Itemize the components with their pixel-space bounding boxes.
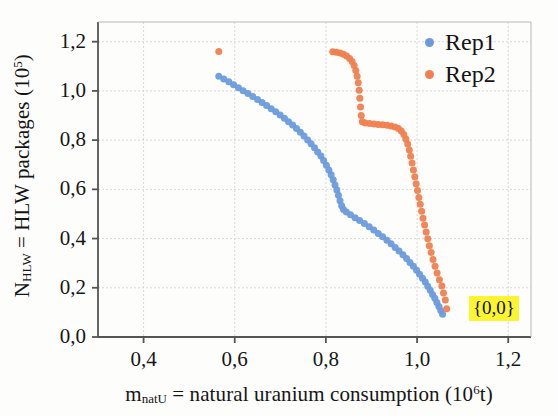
data-point [419, 215, 426, 222]
chart-figure: NHLW = HLW packages (105) mnatU = natura… [0, 0, 558, 416]
data-point [436, 276, 443, 283]
y-tick-label: 1,0 [34, 78, 86, 103]
y-tick-label: 1,2 [34, 29, 86, 54]
data-point [415, 194, 422, 201]
x-axis-symbol-subscript: natU [142, 391, 167, 406]
data-point [356, 95, 363, 102]
data-point [439, 311, 446, 318]
legend-item-rep1[interactable]: Rep1 [425, 26, 496, 58]
data-point [404, 141, 411, 148]
data-point [428, 249, 435, 256]
x-tick-label: 0,8 [296, 347, 356, 372]
series-rep1 [215, 73, 446, 318]
y-tick-label: 0,4 [34, 226, 86, 251]
data-point [354, 73, 361, 80]
data-point [432, 263, 439, 270]
data-point [426, 242, 433, 249]
y-axis-tail: ) [10, 54, 34, 61]
legend-label: Rep2 [445, 62, 496, 86]
x-tick-label: 0,6 [205, 347, 265, 372]
data-point [215, 48, 222, 55]
y-tick-label: 0,6 [34, 176, 86, 201]
data-point [442, 297, 449, 304]
y-axis-symbol: N [10, 282, 34, 297]
data-point [407, 153, 414, 160]
data-point [421, 222, 428, 229]
data-point [357, 103, 364, 110]
x-tick-label: 0,4 [114, 347, 174, 372]
data-point [438, 283, 445, 290]
data-point [440, 289, 447, 296]
data-point [418, 208, 425, 215]
data-series [215, 48, 450, 318]
y-tick-label: 0,2 [34, 275, 86, 300]
legend-marker-icon [425, 70, 434, 79]
data-point [355, 79, 362, 86]
data-point [356, 87, 363, 94]
legend-marker-icon [425, 38, 434, 47]
data-point [413, 180, 420, 187]
y-tick-label: 0,8 [34, 127, 86, 152]
x-tick-label: 1,2 [478, 347, 538, 372]
legend-label: Rep1 [445, 30, 496, 54]
origin-annotation: {0,0} [469, 296, 519, 321]
x-axis-symbol: m [125, 382, 141, 406]
y-axis-symbol-subscript: HLW [20, 254, 35, 283]
x-axis-text: = natural uranium consumption (10 [167, 382, 473, 406]
y-tick-label: 0,0 [34, 324, 86, 349]
data-point [409, 160, 416, 167]
data-point [358, 112, 365, 119]
x-tick-label: 1,0 [387, 347, 447, 372]
data-point [410, 166, 417, 173]
legend-item-rep2[interactable]: Rep2 [425, 58, 496, 90]
x-axis-tail: t) [480, 382, 493, 406]
data-point [430, 256, 437, 263]
data-point [414, 187, 421, 194]
data-point [406, 146, 413, 153]
data-point [443, 305, 450, 312]
data-point [424, 235, 431, 242]
chart-legend: Rep1Rep2 [421, 22, 502, 94]
y-axis-exponent: 5 [11, 62, 26, 69]
data-point [434, 270, 441, 277]
y-axis-text: = HLW packages (10 [10, 68, 34, 254]
x-axis-label: mnatU = natural uranium consumption (106… [60, 382, 558, 407]
data-point [411, 173, 418, 180]
data-point [423, 228, 430, 235]
data-point [417, 201, 424, 208]
